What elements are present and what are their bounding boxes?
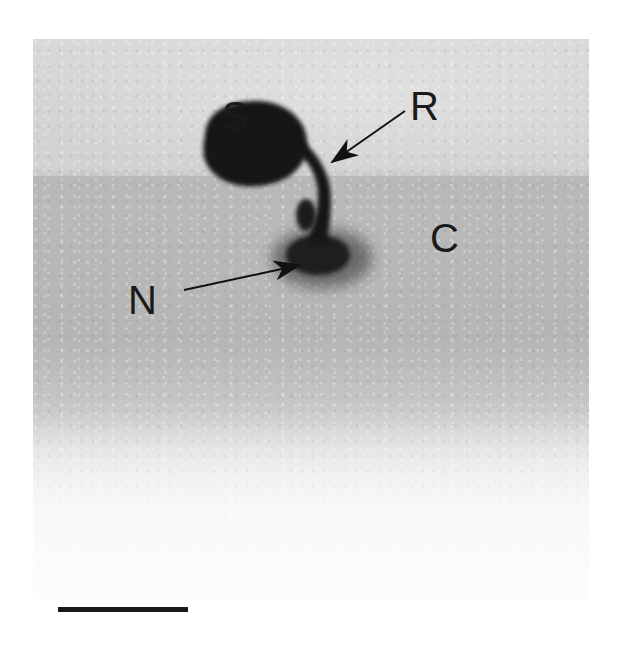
label-n: N — [128, 280, 157, 320]
scale-bar — [58, 607, 188, 612]
micrograph-figure: S R C N — [0, 0, 618, 661]
arrow-r — [332, 111, 405, 162]
specimen-structures — [0, 0, 618, 661]
label-r: R — [410, 86, 439, 126]
label-s: S — [222, 96, 249, 136]
structure-s-spore — [203, 101, 307, 186]
label-c: C — [430, 218, 459, 258]
arrow-n — [184, 265, 300, 290]
